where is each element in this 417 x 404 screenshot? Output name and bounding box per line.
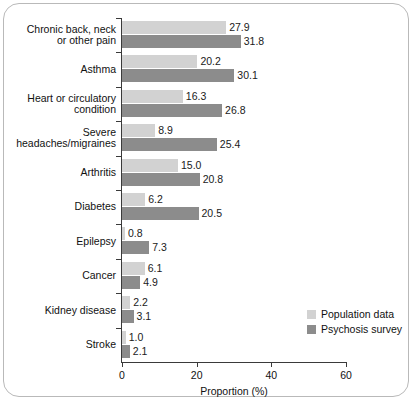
chart-legend: Population data Psychosis survey	[307, 308, 402, 338]
category-label: Severeheadaches/migraines	[4, 127, 116, 150]
bar-psy	[122, 35, 241, 48]
y-axis-tick	[116, 18, 121, 19]
category-label: Kidney disease	[4, 305, 116, 317]
bar-group: 6.14.9	[122, 259, 346, 293]
bar-pop	[122, 331, 126, 344]
bar-group: 16.326.8	[122, 87, 346, 121]
bar-value-label: 0.8	[128, 227, 143, 240]
legend-swatch-psychosis-survey	[307, 325, 316, 334]
bar-pop	[122, 159, 178, 172]
bar-group: 15.020.8	[122, 156, 346, 190]
x-axis-tick-label: 60	[326, 369, 366, 381]
x-axis-tick	[346, 362, 347, 367]
bar-pop	[122, 90, 183, 103]
y-axis-tick	[116, 224, 121, 225]
bar-psy	[122, 69, 234, 82]
bar-psy	[122, 104, 222, 117]
category-label: Diabetes	[4, 201, 116, 213]
category-label: Stroke	[4, 339, 116, 351]
category-label: Cancer	[4, 270, 116, 282]
bar-psy	[122, 173, 200, 186]
bar-value-label: 2.2	[133, 296, 148, 309]
bar-group: 0.87.3	[122, 224, 346, 258]
bar-value-label: 1.0	[129, 331, 144, 344]
category-label: Arthritis	[4, 167, 116, 179]
bar-value-label: 16.3	[186, 90, 206, 103]
x-axis-tick-label: 0	[102, 369, 142, 381]
y-axis-tick	[116, 328, 121, 329]
bar-value-label: 15.0	[181, 159, 201, 172]
x-axis-line	[121, 362, 346, 363]
x-axis-tick	[197, 362, 198, 367]
legend-swatch-population-data	[307, 310, 316, 319]
bar-group: 6.220.5	[122, 190, 346, 224]
bar-value-label: 3.1	[137, 310, 152, 323]
bar-value-label: 20.2	[200, 55, 220, 68]
chart-frame: Chronic back, neckor other painAsthmaHea…	[3, 3, 409, 397]
y-axis-tick	[116, 293, 121, 294]
y-axis-tick	[116, 121, 121, 122]
bar-pop	[122, 227, 125, 240]
bar-pop	[122, 124, 155, 137]
category-label: Epilepsy	[4, 236, 116, 248]
bar-value-label: 26.8	[225, 104, 245, 117]
bar-value-label: 6.2	[148, 193, 163, 206]
bar-value-label: 20.5	[202, 207, 222, 220]
bar-value-label: 25.4	[220, 138, 240, 151]
y-axis-tick	[116, 259, 121, 260]
bar-value-label: 7.3	[152, 241, 167, 254]
bar-value-label: 8.9	[158, 124, 173, 137]
bar-value-label: 2.1	[133, 345, 148, 358]
bar-psy	[122, 241, 149, 254]
bar-value-label: 31.8	[244, 35, 264, 48]
y-axis-tick	[116, 87, 121, 88]
legend-label-population-data: Population data	[321, 308, 394, 320]
bar-pop	[122, 296, 130, 309]
x-axis-tick-label: 40	[251, 369, 291, 381]
bar-group: 20.230.1	[122, 52, 346, 86]
category-label: Asthma	[4, 64, 116, 76]
bar-psy	[122, 207, 199, 220]
bar-psy	[122, 310, 134, 323]
category-label-column: Chronic back, neckor other painAsthmaHea…	[4, 18, 116, 362]
x-axis-tick	[271, 362, 272, 367]
y-axis-tick	[116, 156, 121, 157]
bar-value-label: 20.8	[203, 173, 223, 186]
legend-item-psychosis-survey: Psychosis survey	[307, 323, 402, 335]
bar-value-label: 27.9	[229, 21, 249, 34]
bar-pop	[122, 262, 145, 275]
category-label: Chronic back, neckor other pain	[4, 24, 116, 47]
bar-psy	[122, 138, 217, 151]
bar-pop	[122, 193, 145, 206]
x-axis-tick	[122, 362, 123, 367]
bar-group: 27.931.8	[122, 18, 346, 52]
legend-item-population-data: Population data	[307, 308, 402, 320]
x-axis-tick-label: 20	[177, 369, 217, 381]
bar-value-label: 6.1	[148, 262, 163, 275]
bar-psy	[122, 276, 140, 289]
bar-group: 8.925.4	[122, 121, 346, 155]
bar-pop	[122, 55, 197, 68]
bar-value-label: 30.1	[237, 69, 257, 82]
bar-psy	[122, 345, 130, 358]
legend-label-psychosis-survey: Psychosis survey	[321, 323, 402, 335]
category-label: Heart or circulatorycondition	[4, 93, 116, 116]
bar-pop	[122, 21, 226, 34]
x-axis-title: Proportion (%)	[122, 385, 346, 397]
y-axis-tick	[116, 52, 121, 53]
bar-value-label: 4.9	[143, 276, 158, 289]
y-axis-tick	[116, 190, 121, 191]
